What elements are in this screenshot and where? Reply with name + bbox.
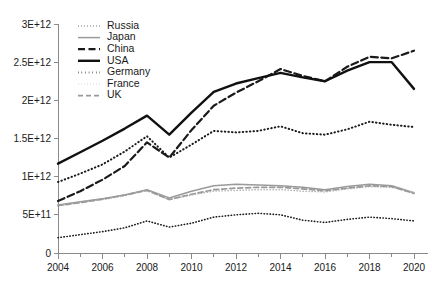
x-axis-tick-label: 2020 [403,262,426,273]
chart-plot-area: 05E+111E+121.5E+122E+122.5E+123E+12 2004… [0,0,432,290]
x-axis: 200420062008201020122014201620182020 [47,253,428,273]
y-axis-tick-label: 2E+12 [22,95,52,106]
x-axis-tick-label: 2012 [225,262,248,273]
x-axis-tick-label: 2008 [136,262,159,273]
legend-label-germany: Germany [107,65,151,77]
legend-label-japan: Japan [107,30,136,42]
series-line-france [58,187,414,206]
x-axis-tick-label: 2018 [358,262,381,273]
y-axis: 05E+111E+121.5E+122E+122.5E+123E+12 [13,19,58,259]
legend-label-china: China [107,42,135,54]
y-axis-tick-label: 0 [45,248,51,259]
y-axis-tick-label: 1.5E+12 [13,133,51,144]
x-axis-tick-label: 2016 [314,262,337,273]
x-axis-tick-label: 2006 [91,262,114,273]
legend-label-russia: Russia [107,19,139,31]
legend-label-france: France [107,77,140,89]
chart-legend: RussiaJapanChinaUSAGermanyFranceUK [78,19,151,101]
series-line-germany [58,122,414,182]
y-axis-tick-label: 3E+12 [22,19,52,30]
x-axis-tick-label: 2014 [269,262,292,273]
y-axis-tick-label: 1E+12 [22,171,52,182]
line-chart: 05E+111E+121.5E+122E+122.5E+123E+12 2004… [0,0,432,290]
x-axis-tick-label: 2004 [47,262,70,273]
x-axis-tick-label: 2010 [180,262,203,273]
legend-label-uk: UK [107,88,122,100]
series-line-russia [58,213,414,237]
series-line-uk [58,186,414,206]
y-axis-tick-label: 5E+11 [23,209,52,220]
legend-label-usa: USA [107,54,129,66]
y-axis-tick-label: 2.5E+12 [13,57,51,68]
